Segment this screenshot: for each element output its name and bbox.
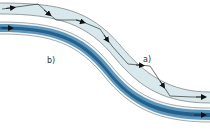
arrow-icon [136,65,143,66]
fiber-a-ray [2,4,206,97]
fiber-diagram: b) a) [0,0,210,134]
fiber-diagram-svg [0,0,210,134]
fiber-a-edge-top [0,3,210,92]
fiber-a [0,3,210,103]
label-b: b) [47,57,55,65]
label-a: a) [143,56,151,64]
